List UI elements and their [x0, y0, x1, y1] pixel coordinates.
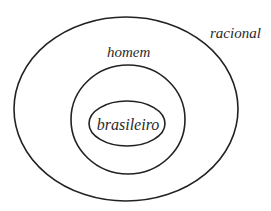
label-homem: homem [107, 44, 150, 60]
label-brasileiro: brasileiro [97, 116, 160, 133]
label-racional: racional [210, 25, 261, 41]
euler-diagram: racional homem brasileiro [0, 0, 271, 211]
diagram-canvas: racional homem brasileiro [0, 0, 271, 211]
